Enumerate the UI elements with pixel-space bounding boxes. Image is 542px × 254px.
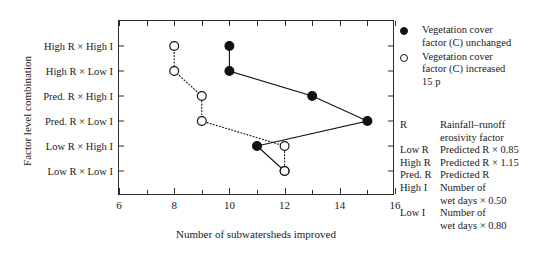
data-point	[197, 117, 206, 126]
abbreviation-key: RRainfall–runofferosivity factorLow RPre…	[400, 119, 542, 232]
open-circle-icon	[400, 51, 422, 66]
data-point	[197, 92, 206, 101]
y-tick-label: Low R × High I	[46, 141, 113, 152]
y-tick-label: Pred. R × Low I	[45, 116, 113, 127]
abbreviation-value-line: Number of	[440, 207, 542, 220]
legend-item: Vegetation coverfactor (C) unchanged	[400, 24, 542, 50]
abbreviation-value-text: Predicted R	[440, 169, 542, 182]
data-point	[225, 67, 234, 76]
abbreviation-key-text: Low I	[400, 207, 440, 220]
y-tick-label: Pred. R × High I	[43, 91, 113, 102]
abbreviation-value-line: erosivity factor	[440, 132, 542, 145]
data-point	[170, 67, 179, 76]
legend-label-line: Vegetation cover	[422, 51, 542, 64]
abbreviation-value-line: Predicted R × 1.15	[440, 157, 542, 170]
x-tick-label: 12	[279, 199, 290, 211]
abbreviation-value-text: Number ofwet days × 0.80	[440, 207, 542, 232]
x-axis-title: Number of subwatersheds improved	[118, 228, 394, 240]
legend-label-line: 15 p	[422, 76, 542, 89]
x-tick-top	[395, 21, 396, 26]
data-point	[280, 142, 289, 151]
abbreviation-key-text: Pred. R	[400, 169, 440, 182]
abbreviation-value-text: Predicted R × 1.15	[440, 157, 542, 170]
abbreviation-value-text: Rainfall–runofferosivity factor	[440, 119, 542, 144]
data-point	[225, 42, 234, 51]
x-tick-label: 6	[116, 199, 122, 211]
legend-label: Vegetation coverfactor (C) increased15 p	[422, 51, 542, 89]
x-tick-major	[395, 188, 396, 194]
abbreviation-key-text: R	[400, 119, 440, 132]
legend-label-line: factor (C) unchanged	[422, 37, 542, 50]
filled-circle-icon	[400, 24, 422, 39]
abbreviation-row: High RPredicted R × 1.15	[400, 157, 542, 170]
abbreviation-row: Pred. RPredicted R	[400, 169, 542, 182]
legend-label: Vegetation coverfactor (C) unchanged	[422, 24, 542, 50]
y-tick-label: High R × High I	[44, 41, 113, 52]
data-point	[170, 42, 179, 51]
data-point	[363, 117, 372, 126]
abbreviation-value-line: Predicted R × 0.85	[440, 144, 542, 157]
chart-legend: Vegetation coverfactor (C) unchangedVege…	[400, 24, 542, 90]
y-tick-label: High R × Low I	[46, 66, 113, 77]
x-tick-label: 16	[390, 199, 401, 211]
abbreviation-key-text: High R	[400, 157, 440, 170]
data-point	[280, 167, 289, 176]
abbreviation-value-line: Predicted R	[440, 169, 542, 182]
data-point	[308, 92, 317, 101]
y-axis-title: Factor level combination	[21, 21, 33, 201]
legend-label-line: factor (C) increased	[422, 63, 542, 76]
abbreviation-value-line: wet days × 0.50	[440, 195, 542, 208]
x-tick-label: 8	[171, 199, 177, 211]
x-tick-label: 14	[334, 199, 345, 211]
legend-item: Vegetation coverfactor (C) increased15 p	[400, 51, 542, 89]
abbreviation-value-line: wet days × 0.80	[440, 220, 542, 233]
abbreviation-value-line: Number of	[440, 182, 542, 195]
data-point	[253, 142, 262, 151]
plot-area: High R × High IHigh R × Low IPred. R × H…	[118, 20, 394, 195]
abbreviation-row: Low INumber ofwet days × 0.80	[400, 207, 542, 232]
abbreviation-value-text: Predicted R × 0.85	[440, 144, 542, 157]
abbreviation-value-line: Rainfall–runoff	[440, 119, 542, 132]
abbreviation-value-text: Number ofwet days × 0.50	[440, 182, 542, 207]
legend-label-line: Vegetation cover	[422, 24, 542, 37]
y-tick-label: Low R × Low I	[48, 166, 113, 177]
abbreviation-row: High INumber ofwet days × 0.50	[400, 182, 542, 207]
data-series-layer	[119, 21, 395, 196]
abbreviation-row: Low RPredicted R × 0.85	[400, 144, 542, 157]
abbreviation-key-text: Low R	[400, 144, 440, 157]
series-line	[229, 46, 367, 171]
abbreviation-row: RRainfall–runofferosivity factor	[400, 119, 542, 144]
chart-figure: Factor level combination High R × High I…	[0, 0, 542, 254]
abbreviation-key-text: High I	[400, 182, 440, 195]
x-tick-label: 10	[224, 199, 235, 211]
